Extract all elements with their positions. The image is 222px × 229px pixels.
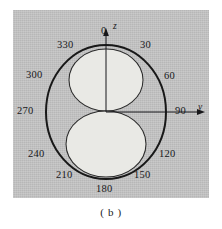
angle-tick-150: 150 [134, 170, 150, 181]
angle-tick-0: 0 [101, 26, 106, 37]
lower-lobe-shape [66, 111, 146, 177]
angle-tick-60: 60 [164, 71, 175, 82]
angle-tick-120: 120 [159, 149, 175, 160]
angle-tick-180: 180 [96, 184, 112, 195]
polar-radiation-pattern-plot [13, 10, 209, 198]
angle-tick-240: 240 [28, 149, 44, 160]
figure-caption: ( b ) [0, 206, 222, 218]
angle-tick-210: 210 [56, 170, 72, 181]
angle-tick-300: 300 [26, 70, 42, 81]
angle-tick-270: 270 [17, 106, 33, 117]
y-axis-label: y [198, 103, 202, 113]
angle-tick-330: 330 [57, 40, 73, 51]
z-axis-label: z [113, 22, 117, 32]
figure-container: z y 0 30 60 90 120 150 180 210 240 270 3… [0, 0, 222, 229]
angle-tick-30: 30 [140, 40, 151, 51]
angle-tick-90: 90 [175, 106, 186, 117]
